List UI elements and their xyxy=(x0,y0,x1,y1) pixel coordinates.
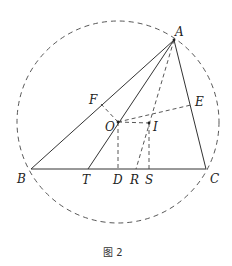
figure-caption: 图 2 xyxy=(103,247,123,258)
segment-AB xyxy=(31,40,174,169)
label-R: R xyxy=(129,173,139,187)
label-D: D xyxy=(112,173,123,187)
label-T: T xyxy=(82,173,91,187)
label-S: S xyxy=(145,173,153,187)
point-O xyxy=(117,121,120,124)
label-E: E xyxy=(194,95,204,109)
point-A xyxy=(173,39,176,42)
segment-OI xyxy=(118,122,149,123)
segment-AR xyxy=(136,40,174,169)
point-I xyxy=(148,122,151,125)
geometry-figure: A B C E F O I T D R S 图 2 xyxy=(0,0,232,266)
label-F: F xyxy=(88,93,98,107)
label-B: B xyxy=(16,172,26,186)
label-O: O xyxy=(105,120,115,134)
label-A: A xyxy=(174,25,184,39)
label-C: C xyxy=(210,172,219,186)
label-I: I xyxy=(152,120,158,134)
